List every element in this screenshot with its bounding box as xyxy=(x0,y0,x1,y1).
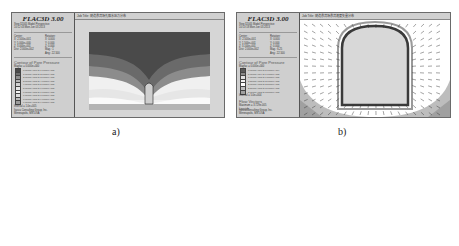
date-info: 10:13:18 Mon Jun 03 2013 xyxy=(237,26,299,29)
caption-b: b) xyxy=(338,126,346,137)
flow-vector-plot xyxy=(300,20,450,117)
ang: Ang.: 22.500 xyxy=(43,52,74,55)
app-title: FLAC3D 3.00 xyxy=(237,15,299,23)
divider xyxy=(14,57,72,58)
flac3d-window-a: FLAC3D 3.00 Step 32005 Model Perspective… xyxy=(11,12,225,118)
legend-label: 0.0000e+000 to 5.0000e+004 xyxy=(248,69,279,72)
legend-label: 1.0000e+005 to 1.5000e+005 xyxy=(248,76,279,79)
legend-label: 2.5000e+005 to 3.0000e+005 xyxy=(248,87,279,90)
legend-label: 5.0000e+004 to 1.0000e+005 xyxy=(248,73,279,76)
legend-label: 6.0000e+005 to 7.0000e+005 xyxy=(23,91,54,94)
footer: Itasca Consulting Group, Inc. Minneapoli… xyxy=(239,109,272,115)
legend-label: 4.0000e+005 to 5.0000e+005 xyxy=(23,83,54,86)
legend-label: 9.0000e+005 to 9.8000e+005 xyxy=(23,101,54,104)
legend-label: 1.0000e+005 to 2.0000e+005 xyxy=(23,73,54,76)
footer-line: Minneapolis, MN USA xyxy=(239,112,272,115)
dist: Dist: 2.000e+002 xyxy=(237,48,268,51)
app-title: FLAC3D 3.00 xyxy=(12,15,74,23)
legend-interval: Interval = 1.0e+005 xyxy=(12,105,74,108)
pore-pressure-contour xyxy=(75,20,224,117)
flac3d-window-b: FLAC3D 3.00 Step 32005 Model Perspective… xyxy=(236,12,451,118)
legend-interval: Interval = 5.0e+004 xyxy=(237,94,299,97)
legend-label: 2.0000e+005 to 2.5000e+005 xyxy=(248,83,279,86)
divider xyxy=(14,32,72,33)
legend-label: 5.0000e+005 to 6.0000e+005 xyxy=(23,87,54,90)
divider xyxy=(239,32,297,33)
footer-line: Minneapolis, MN USA xyxy=(14,112,47,115)
legend-label: 0.0000e+000 to 1.0000e+005 xyxy=(23,69,54,72)
view-params: Center: X: 2.500e+001 Y: 5.000e+000 Z: 3… xyxy=(12,35,74,55)
legend-panel: FLAC3D 3.00 Step 32005 Model Perspective… xyxy=(237,13,300,117)
legend-entries: 0.0000e+000 to 1.0000e+0051.0000e+005 to… xyxy=(12,69,74,105)
legend-panel: FLAC3D 3.00 Step 32005 Model Perspective… xyxy=(12,13,75,117)
legend-label: 3.0000e+005 to 4.0000e+005 xyxy=(23,80,54,83)
caption-a: a) xyxy=(112,126,120,137)
legend-label: 2.0000e+005 to 3.0000e+005 xyxy=(23,76,54,79)
legend-label: 8.0000e+005 to 9.0000e+005 xyxy=(23,98,54,101)
footer: Itasca Consulting Group, Inc. Minneapoli… xyxy=(14,109,47,115)
view-params: Center: X: 2.500e+001 Y: 1.500e+001 Z: 3… xyxy=(237,35,299,55)
job-title: Job Title: 隧道渗流场孔隙水压力分布 xyxy=(75,13,224,20)
date-info: 10:12:43 Mon Jun 03 2013 xyxy=(12,26,74,29)
model-view: Job Title: 隧道渗流场渗流速度矢量分布 xyxy=(300,13,450,117)
divider xyxy=(239,57,297,58)
legend-entries: 0.0000e+000 to 5.0000e+0045.0000e+004 to… xyxy=(237,69,299,94)
legend-label: 1.5000e+005 to 2.0000e+005 xyxy=(248,80,279,83)
ang: Ang.: 22.500 xyxy=(268,52,299,55)
legend-label: 7.0000e+005 to 8.0000e+005 xyxy=(23,94,54,97)
job-title: Job Title: 隧道渗流场渗流速度矢量分布 xyxy=(300,13,450,20)
model-view: Job Title: 隧道渗流场孔隙水压力分布 xyxy=(75,13,224,117)
dist: Dist: 2.000e+002 xyxy=(12,48,43,51)
